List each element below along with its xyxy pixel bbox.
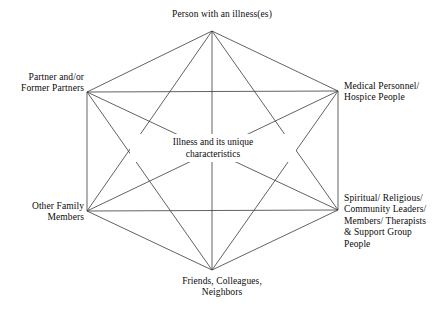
node-spiritual-line-3: Members/ Therapists	[344, 216, 444, 227]
edge-person-partner	[87, 31, 212, 92]
node-family-line-2: Members	[4, 212, 84, 223]
node-medical-line-2: Hospice People	[344, 92, 442, 103]
node-label-person-with-illness: Person with an illness(es)	[0, 9, 444, 20]
edge-family-friends	[87, 211, 212, 270]
edge-family-spiritual	[87, 210, 338, 211]
illness-core-line-1: Illness and its unique	[131, 136, 295, 148]
edge-person-spiritual	[212, 31, 338, 210]
node-label-spiritual-religious-support: Spiritual/ Religious/ Community Leaders/…	[344, 193, 444, 250]
node-label-medical-personnel-hospice: Medical Personnel/ Hospice People	[344, 81, 442, 104]
node-spiritual-line-2: Community Leaders/	[344, 204, 444, 215]
node-person-line-1: Person with an illness(es)	[0, 9, 444, 20]
node-spiritual-line-5: People	[344, 239, 444, 250]
node-friends-line-2: Neighbors	[0, 287, 444, 298]
edge-person-medical	[212, 31, 338, 91]
node-family-line-1: Other Family	[4, 201, 84, 212]
edge-medical-friends	[212, 91, 338, 270]
edge-spiritual-friends	[212, 210, 338, 270]
edge-partner-medical	[87, 91, 338, 92]
node-label-other-family-members: Other Family Members	[4, 201, 84, 224]
node-label-friends-colleagues-neighbors: Friends, Colleagues, Neighbors	[0, 276, 444, 299]
node-partner-line-1: Partner and/or	[6, 72, 84, 83]
node-medical-line-1: Medical Personnel/	[344, 81, 442, 92]
node-friends-line-1: Friends, Colleagues,	[0, 276, 444, 287]
node-spiritual-line-4: & Support Group	[344, 227, 444, 238]
illness-core-line-2: characteristics	[131, 148, 295, 160]
node-spiritual-line-1: Spiritual/ Religious/	[344, 193, 444, 204]
illness-core-label: Illness and its unique characteristics	[130, 134, 296, 162]
node-label-partner-former-partners: Partner and/or Former Partners	[6, 72, 84, 95]
node-partner-line-2: Former Partners	[6, 83, 84, 94]
diagram-canvas: Illness and its unique characteristics P…	[0, 0, 444, 319]
